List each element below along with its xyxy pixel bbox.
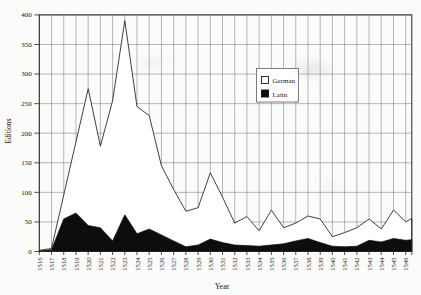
legend-latin-label: Latin [273, 91, 288, 99]
y-tick-label: 350 [21, 41, 32, 49]
y-tick-label: 250 [21, 100, 32, 108]
x-tick-label: 1531 [219, 258, 226, 271]
chart-figure: 0501001502002503003504001516151715181519… [0, 0, 421, 295]
x-tick-label: 1542 [353, 258, 360, 271]
y-tick-label: 50 [25, 218, 33, 226]
x-tick-label: 1522 [109, 258, 116, 271]
x-tick-label: 1539 [317, 257, 324, 271]
x-tick-label: 1525 [146, 257, 153, 271]
legend-latin-swatch [262, 90, 269, 97]
editions-area-chart: 0501001502002503003504001516151715181519… [0, 0, 421, 295]
x-tick-label: 1523 [121, 257, 128, 271]
x-tick-label: 1520 [85, 257, 92, 271]
y-tick-label: 0 [28, 248, 32, 256]
x-tick-label: 1529 [195, 257, 202, 271]
x-tick-label: 1528 [182, 257, 189, 271]
legend: GermanLatin [257, 69, 299, 103]
x-tick-label: 1532 [231, 258, 238, 271]
x-tick-label: 1519 [73, 257, 80, 271]
legend-german-swatch [262, 77, 269, 84]
x-tick-label: 1545 [390, 257, 397, 271]
x-tick-label: 1544 [378, 257, 385, 271]
german-area [39, 21, 412, 252]
y-tick-label: 150 [21, 159, 32, 167]
x-tick-label: 1526 [158, 257, 165, 271]
y-tick-label: 100 [21, 189, 32, 197]
x-tick-label: 1540 [329, 257, 336, 271]
x-tick-label: 1521 [97, 258, 104, 271]
x-tick-label: 1517 [48, 257, 55, 271]
x-tick-label: 1535 [268, 257, 275, 271]
y-tick-label: 400 [21, 11, 32, 19]
x-tick-label: 1516 [36, 257, 43, 271]
x-tick-label: 1537 [292, 257, 299, 271]
x-tick-label: 1538 [305, 257, 312, 271]
x-tick-label: 1518 [60, 257, 67, 271]
x-tick-label: 1536 [280, 257, 287, 271]
x-tick-label: 1543 [366, 257, 373, 271]
x-tick-label: 1530 [207, 257, 214, 271]
legend-german-label: German [273, 77, 296, 85]
y-axis-title: Editions [4, 118, 13, 143]
x-tick-label: 1546 [402, 257, 409, 271]
x-tick-label: 1524 [134, 257, 141, 271]
x-tick-label: 1527 [170, 257, 177, 271]
x-tick-label: 1533 [244, 257, 251, 271]
x-tick-label: 1541 [341, 258, 348, 271]
x-axis-title: Year [215, 282, 230, 291]
y-tick-label: 300 [21, 70, 32, 78]
x-tick-label: 1534 [256, 257, 263, 271]
y-tick-label: 200 [21, 130, 32, 138]
